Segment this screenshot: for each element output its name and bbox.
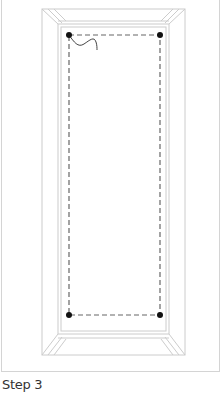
outer-frame [42, 9, 185, 355]
corner-dot-bottom-right [157, 312, 163, 318]
step-caption: Step 3 [2, 377, 42, 392]
wire-icon [69, 35, 97, 50]
corner-dot-top-right [157, 32, 163, 38]
corner-dot-top-left [66, 32, 72, 38]
inner-frame-lip [61, 27, 166, 331]
corner-dot-bottom-left [66, 312, 72, 318]
window-frame-diagram [2, 0, 222, 372]
inner-frame [58, 24, 169, 334]
diagram-panel [1, 0, 220, 372]
dashed-measurement-outline [69, 35, 160, 315]
